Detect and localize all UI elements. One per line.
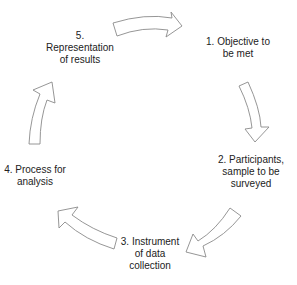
arrow-5-to-1-icon: [113, 12, 182, 37]
step-1-label: 1. Objective to be met: [190, 36, 286, 60]
step-5-label: 5. Representation of results: [40, 30, 120, 66]
arrow-2-to-3-icon: [186, 208, 241, 257]
cycle-diagram: 1. Objective to be met 2. Participants, …: [0, 0, 297, 285]
step-2-label: 2. Participants, sample to be surveyed: [205, 154, 297, 190]
step-4-label: 4. Process for analysis: [0, 164, 70, 188]
step-3-label: 3. Instrument of data collection: [110, 236, 190, 272]
arrow-3-to-4-icon: [58, 207, 117, 249]
arrow-1-to-2-icon: [239, 82, 269, 142]
arrow-4-to-5-icon: [29, 82, 55, 144]
